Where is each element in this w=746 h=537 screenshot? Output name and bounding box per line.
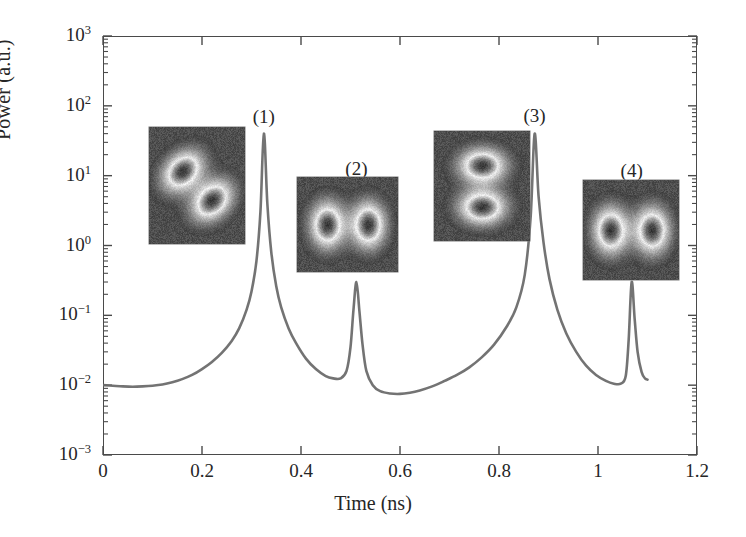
y-tick-label: 102: [66, 95, 91, 114]
y-tick-label: 101: [66, 165, 91, 184]
x-tick-label: 0: [73, 460, 133, 482]
peak-label: (1): [234, 106, 294, 128]
y-tick-label: 10−2: [59, 374, 91, 393]
x-tick-label: 0.8: [469, 460, 529, 482]
beam-profile-4: [583, 180, 679, 280]
figure-semilog-pulse-train: Power (a.u.) Time (ns) 10310210110010−11…: [0, 0, 746, 537]
x-tick-label: 1.2: [667, 460, 727, 482]
y-tick-label: 10−1: [59, 304, 91, 323]
x-tick-label: 0.4: [271, 460, 331, 482]
x-tick-label: 0.2: [172, 460, 232, 482]
beam-profile-3: [434, 131, 530, 241]
beam-profile-2: [297, 177, 398, 272]
peak-label: (4): [602, 160, 662, 182]
x-tick-label: 1: [568, 460, 628, 482]
y-tick-label: 103: [66, 25, 91, 44]
y-tick-label: 100: [66, 235, 91, 254]
x-axis-label: Time (ns): [0, 492, 746, 515]
x-tick-label: 0.6: [370, 460, 430, 482]
beam-profile-1: [149, 127, 245, 244]
y-axis-label: Power (a.u.): [0, 0, 15, 140]
peak-label: (3): [505, 105, 565, 127]
